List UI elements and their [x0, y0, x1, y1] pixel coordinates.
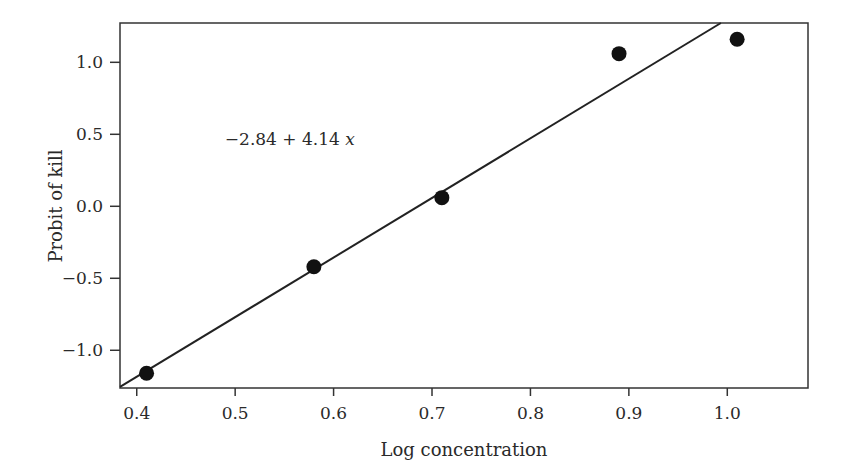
x-tick-label: 1.0: [714, 403, 741, 423]
data-point: [612, 46, 627, 61]
y-tick-label: 0.0: [76, 196, 103, 216]
equation-text: −2.84 + 4.14 x: [225, 129, 355, 149]
x-tick-label: 0.8: [517, 403, 544, 423]
y-tick-label: 0.5: [76, 124, 103, 144]
plot-border: [120, 23, 808, 388]
x-tick-label: 0.4: [123, 403, 150, 423]
data-points: [139, 32, 745, 381]
data-point: [306, 259, 321, 274]
x-tick-label: 0.9: [615, 403, 642, 423]
probit-chart: 0.40.50.60.70.80.91.0 1.00.50.0−0.5−1.0 …: [0, 0, 847, 476]
data-point: [434, 190, 449, 205]
fit-line: [120, 23, 721, 387]
equation-annotation: −2.84 + 4.14 x: [225, 129, 355, 149]
data-point: [730, 32, 745, 47]
regression-line: [120, 23, 721, 387]
plot-frame: [120, 23, 808, 388]
y-axis-ticks: 1.00.50.0−0.5−1.0: [62, 52, 120, 360]
y-tick-label: −0.5: [62, 268, 103, 288]
y-axis-label: Probit of kill: [45, 149, 66, 262]
x-tick-label: 0.5: [222, 403, 249, 423]
x-tick-label: 0.6: [320, 403, 347, 423]
x-axis-label: Log concentration: [381, 439, 548, 460]
data-point: [139, 366, 154, 381]
x-tick-label: 0.7: [418, 403, 445, 423]
y-tick-label: −1.0: [62, 340, 103, 360]
x-axis-ticks: 0.40.50.60.70.80.91.0: [123, 388, 741, 423]
y-tick-label: 1.0: [76, 52, 103, 72]
